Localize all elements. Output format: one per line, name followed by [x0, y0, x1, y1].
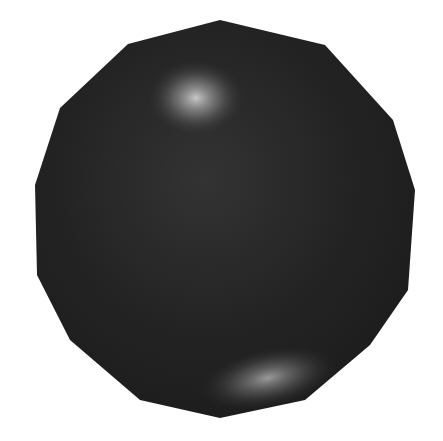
- top-highlight: [148, 60, 244, 136]
- sphere-render: [0, 0, 443, 441]
